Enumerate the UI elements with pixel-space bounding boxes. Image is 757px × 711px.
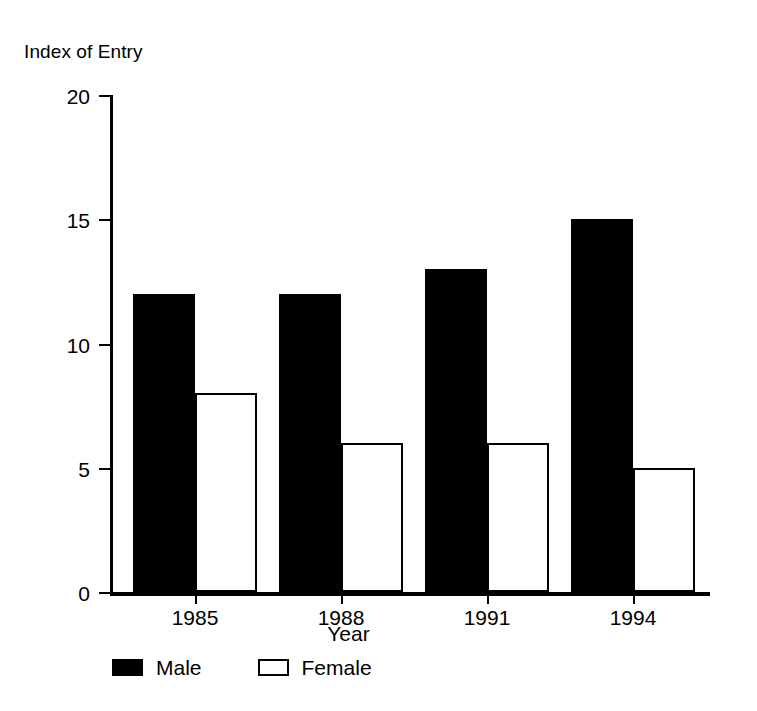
x-tick bbox=[487, 592, 489, 604]
y-tick: 15 bbox=[99, 219, 110, 221]
bar-chart-figure: Index of Entry 05101520 1985198819911994… bbox=[0, 0, 757, 711]
y-tick-label: 15 bbox=[67, 210, 90, 231]
legend-label: Male bbox=[156, 657, 202, 678]
bar-female-1988 bbox=[341, 443, 403, 592]
y-tick: 10 bbox=[99, 344, 110, 346]
y-tick-label: 10 bbox=[67, 334, 90, 355]
y-tick-label: 5 bbox=[78, 458, 90, 479]
bar-male-1991 bbox=[425, 269, 487, 592]
x-tick bbox=[341, 592, 343, 604]
y-axis-title: Index of Entry bbox=[24, 41, 143, 63]
y-axis-line bbox=[110, 95, 113, 592]
x-tick bbox=[633, 592, 635, 604]
legend-label: Female bbox=[302, 657, 372, 678]
bar-female-1985 bbox=[195, 393, 257, 592]
bar-female-1994 bbox=[633, 468, 695, 592]
y-tick: 0 bbox=[99, 592, 110, 594]
chart-legend: MaleFemale bbox=[112, 657, 372, 678]
bar-male-1994 bbox=[571, 219, 633, 592]
legend-swatch-female-icon bbox=[258, 659, 289, 676]
plot-area: 05101520 1985198819911994 bbox=[110, 95, 710, 592]
bar-female-1991 bbox=[487, 443, 549, 592]
bar-male-1985 bbox=[133, 294, 195, 592]
legend-item-female[interactable]: Female bbox=[258, 657, 372, 678]
y-tick-label: 20 bbox=[67, 86, 90, 107]
x-axis-title: Year bbox=[0, 622, 757, 646]
legend-item-male[interactable]: Male bbox=[112, 657, 202, 678]
y-tick: 5 bbox=[99, 468, 110, 470]
y-tick-label: 0 bbox=[78, 583, 90, 604]
y-tick: 20 bbox=[99, 95, 110, 97]
x-tick bbox=[195, 592, 197, 604]
legend-swatch-male-icon bbox=[112, 659, 143, 676]
bar-male-1988 bbox=[279, 294, 341, 592]
x-axis-line bbox=[110, 592, 710, 596]
